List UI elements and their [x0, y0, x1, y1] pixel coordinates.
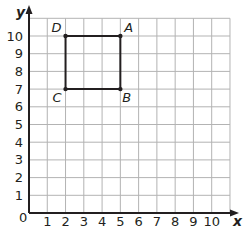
- y-axis-label: y: [16, 4, 26, 20]
- x-tick-label: 10: [203, 214, 220, 229]
- y-tick-label: 1: [15, 188, 23, 203]
- x-tick-label: 3: [80, 214, 88, 229]
- y-tick-label: 6: [15, 99, 23, 114]
- y-axis-arrow-icon: [26, 5, 33, 14]
- point-d-label: D: [52, 20, 62, 35]
- point-a-dot: [118, 34, 122, 38]
- point-c-label: C: [52, 90, 62, 105]
- y-tick-label: 2: [15, 170, 23, 185]
- x-axis-label: x: [232, 213, 243, 229]
- y-tick-label: 10: [6, 29, 23, 44]
- origin-label: 0: [19, 210, 27, 225]
- x-tick-label: 8: [171, 214, 179, 229]
- point-b-label: B: [122, 90, 131, 105]
- x-tick-label: 1: [43, 214, 51, 229]
- axes: [26, 5, 240, 217]
- y-tick-label: 7: [15, 82, 23, 97]
- x-tick-label: 5: [116, 214, 124, 229]
- point-d-dot: [63, 34, 67, 38]
- y-tick-label: 5: [15, 117, 23, 132]
- y-tick-label: 8: [15, 64, 23, 79]
- y-tick-label: 9: [15, 46, 23, 61]
- tick-labels: 1234567891012345678910: [6, 29, 220, 230]
- x-tick-label: 7: [153, 214, 161, 229]
- point-a-label: A: [123, 20, 133, 35]
- square-outline: [66, 36, 121, 89]
- square-abcd: ABCD: [52, 20, 134, 105]
- y-tick-label: 4: [15, 135, 23, 150]
- x-tick-label: 2: [61, 214, 69, 229]
- y-tick-label: 3: [15, 152, 23, 167]
- x-tick-label: 6: [134, 214, 142, 229]
- x-tick-label: 4: [98, 214, 106, 229]
- x-tick-label: 9: [189, 214, 197, 229]
- point-c-dot: [63, 87, 67, 91]
- coordinate-plane: 1234567891012345678910 x y 0 ABCD: [0, 0, 244, 240]
- grid-lines: [29, 18, 230, 213]
